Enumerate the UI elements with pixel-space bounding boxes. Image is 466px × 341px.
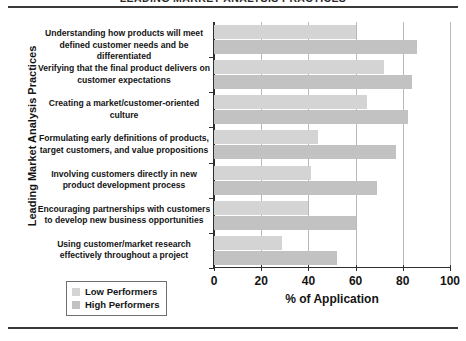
y-axis-tick [209, 163, 214, 164]
category-label: Creating a market/customer-oriented cult… [36, 98, 212, 121]
bar-low-performers [214, 95, 367, 109]
x-axis-tick-label: 80 [383, 274, 423, 288]
x-axis-tick [403, 265, 404, 271]
bar-high-performers [214, 75, 412, 89]
x-axis-tick-label: 40 [288, 274, 328, 288]
bar-high-performers [214, 251, 337, 265]
category-label: Verifying that the final product deliver… [36, 63, 212, 86]
x-axis-tick [214, 265, 215, 271]
gridline [403, 22, 404, 268]
x-axis-tick [356, 265, 357, 271]
legend-swatch-icon [72, 288, 80, 296]
x-axis-tick [450, 265, 451, 271]
legend-item-high-performers: High Performers [72, 298, 159, 311]
legend-item-low-performers: Low Performers [72, 285, 159, 298]
legend-swatch-icon [72, 301, 80, 309]
x-axis-title: % of Application [214, 292, 450, 306]
gridline [450, 22, 451, 268]
bar-high-performers [214, 181, 377, 195]
bar-high-performers [214, 40, 417, 54]
x-axis-tick-label: 100 [430, 274, 466, 288]
x-axis-tick-label: 20 [241, 274, 281, 288]
bottom-divider-rule [8, 327, 458, 329]
legend-label: High Performers [85, 299, 159, 310]
bar-low-performers [214, 236, 282, 250]
x-axis-tick-label: 0 [194, 274, 234, 288]
bar-low-performers [214, 201, 308, 215]
category-label: Encouraging partnerships with customers … [36, 204, 212, 227]
chart-title: LEADING MARKET ANALYSIS PRACTICES [0, 0, 466, 5]
bar-low-performers [214, 130, 318, 144]
chart-legend: Low Performers High Performers [66, 281, 167, 316]
y-axis-tick [209, 92, 214, 93]
y-axis-tick [209, 198, 214, 199]
bar-low-performers [214, 25, 356, 39]
x-axis-line [213, 267, 451, 268]
bar-low-performers [214, 60, 384, 74]
bar-high-performers [214, 110, 408, 124]
category-label: Using customer/market research effective… [36, 239, 212, 262]
y-axis-tick [209, 233, 214, 234]
category-label: Formulating early definitions of product… [36, 133, 212, 156]
bar-high-performers [214, 145, 396, 159]
x-axis-tick-label: 60 [336, 274, 376, 288]
category-label: Understanding how products will meet def… [36, 28, 212, 63]
chart-figure: LEADING MARKET ANALYSIS PRACTICES Leadin… [0, 0, 466, 341]
x-axis-tick [308, 265, 309, 271]
bar-low-performers [214, 166, 311, 180]
legend-label: Low Performers [85, 286, 157, 297]
y-axis-tick [209, 127, 214, 128]
top-divider-rule [8, 6, 458, 8]
x-axis-tick [261, 265, 262, 271]
bar-high-performers [214, 216, 356, 230]
y-axis-tick [209, 268, 214, 269]
category-label: Involving customers directly in new prod… [36, 169, 212, 192]
